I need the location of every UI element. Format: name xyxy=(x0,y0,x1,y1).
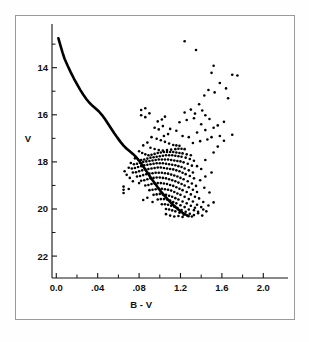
data-point xyxy=(131,167,134,170)
data-point xyxy=(205,210,208,213)
data-point xyxy=(173,205,176,208)
data-point xyxy=(206,138,209,141)
data-point xyxy=(183,148,186,151)
data-point xyxy=(150,136,153,139)
data-point xyxy=(161,187,164,190)
data-point xyxy=(173,191,176,194)
data-point xyxy=(156,198,159,201)
data-point xyxy=(163,151,166,154)
data-point xyxy=(181,200,184,203)
data-point xyxy=(185,202,188,205)
data-point xyxy=(169,151,172,154)
data-point xyxy=(166,151,169,154)
data-point xyxy=(146,196,149,199)
data-point xyxy=(152,194,155,197)
data-point xyxy=(140,109,143,112)
data-point xyxy=(189,175,192,178)
data-point xyxy=(138,182,141,185)
data-point xyxy=(154,188,157,191)
data-point xyxy=(200,123,203,126)
data-point xyxy=(153,153,156,156)
data-point xyxy=(171,154,174,157)
data-point xyxy=(182,178,185,181)
data-point xyxy=(150,154,153,157)
data-point xyxy=(186,180,189,183)
scatter-points xyxy=(122,40,238,218)
data-point xyxy=(142,199,145,202)
data-point xyxy=(173,159,176,162)
data-point xyxy=(161,118,164,121)
data-point xyxy=(140,165,143,168)
data-point xyxy=(147,184,150,187)
x-tick-label: 0.0 xyxy=(50,282,63,293)
x-axis-title: B - V xyxy=(130,299,152,310)
data-point xyxy=(158,176,161,179)
data-point xyxy=(175,130,178,133)
data-point xyxy=(149,156,152,159)
data-point xyxy=(151,159,154,162)
data-point xyxy=(155,176,158,179)
data-point xyxy=(149,177,152,180)
data-point xyxy=(158,162,161,165)
data-point xyxy=(186,162,189,165)
data-point xyxy=(179,204,182,207)
data-point xyxy=(198,103,201,106)
data-point xyxy=(178,187,181,190)
data-point xyxy=(182,213,185,216)
data-point xyxy=(195,49,198,52)
data-point xyxy=(155,138,158,141)
data-point xyxy=(183,167,186,170)
data-point xyxy=(181,189,184,192)
data-point xyxy=(139,175,142,178)
figure-container: 14161820220.0.04.081.21.62.0VB - V xyxy=(0,0,309,342)
data-point xyxy=(168,154,171,157)
data-point xyxy=(162,125,165,128)
data-point xyxy=(178,211,181,214)
data-point xyxy=(136,175,139,178)
data-point xyxy=(185,153,188,156)
data-point xyxy=(140,114,143,117)
data-point xyxy=(139,162,142,165)
data-point xyxy=(207,89,210,92)
data-point xyxy=(168,208,171,211)
data-point xyxy=(143,179,146,182)
data-point xyxy=(157,149,160,152)
data-point xyxy=(137,158,140,161)
data-point xyxy=(174,148,177,151)
data-point xyxy=(149,163,152,166)
data-point xyxy=(152,162,155,165)
data-point xyxy=(153,167,156,170)
data-point xyxy=(140,179,143,182)
data-point xyxy=(187,169,190,172)
data-point xyxy=(192,200,195,203)
data-point xyxy=(168,163,171,166)
data-point xyxy=(157,171,160,174)
data-point xyxy=(204,175,207,178)
data-point xyxy=(187,136,190,139)
data-point xyxy=(200,168,203,171)
data-point xyxy=(208,118,211,121)
data-point xyxy=(167,188,170,191)
data-point xyxy=(163,135,166,138)
data-point xyxy=(132,171,135,174)
y-tick-label: 16 xyxy=(37,109,48,120)
data-point xyxy=(200,206,203,209)
data-point xyxy=(210,72,213,75)
data-point xyxy=(167,203,170,206)
color-magnitude-diagram: 14161820220.0.04.081.21.62.0VB - V xyxy=(0,0,309,342)
data-point xyxy=(160,151,163,154)
data-point xyxy=(175,144,178,147)
data-point xyxy=(219,135,222,138)
data-point xyxy=(164,115,167,118)
data-point xyxy=(144,168,147,171)
data-point xyxy=(171,179,174,182)
data-point xyxy=(172,151,175,154)
data-point xyxy=(216,124,219,127)
data-point xyxy=(164,188,167,191)
data-point xyxy=(156,182,159,185)
data-point xyxy=(134,167,137,170)
data-point xyxy=(165,208,168,211)
data-point xyxy=(196,165,199,168)
data-point xyxy=(157,187,160,190)
data-point xyxy=(227,97,230,100)
